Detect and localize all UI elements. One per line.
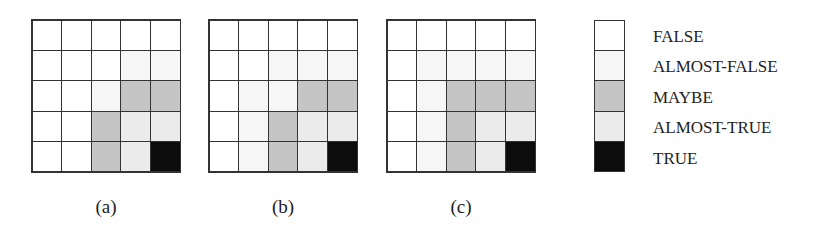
grid-cell: [446, 20, 477, 51]
grid-cell: [268, 141, 299, 172]
legend-swatch-almost-true: [595, 112, 624, 142]
grid-cell: [238, 141, 269, 172]
grid-cell: [268, 80, 299, 111]
legend-swatch-almost-false: [595, 51, 624, 81]
grid-cell: [91, 20, 122, 51]
grid-cell: [416, 111, 447, 142]
grid-cell: [268, 50, 299, 81]
grid-cell: [32, 80, 63, 111]
caption-c: (c): [386, 196, 536, 218]
grid-cell: [61, 111, 92, 142]
legend-swatches: [594, 20, 625, 172]
grid-cell: [387, 141, 418, 172]
grid-cell: [475, 20, 506, 51]
grid-cell: [238, 50, 269, 81]
grid-cell: [150, 111, 181, 142]
legend-label-almost-false: ALMOST-FALSE: [653, 52, 778, 82]
grid-cell: [32, 111, 63, 142]
grid-cell: [209, 80, 240, 111]
legend-label-maybe: MAYBE: [653, 83, 778, 113]
legend-swatch-maybe: [595, 81, 624, 111]
grid-cell: [120, 20, 151, 51]
grid-cell: [327, 50, 358, 81]
legend-label-almost-true: ALMOST-TRUE: [653, 113, 778, 143]
grid-panel-c: [386, 19, 536, 173]
grid-cell: [91, 50, 122, 81]
grid-cell: [150, 20, 181, 51]
grid-panel-a: [31, 19, 181, 173]
grid-cell: [416, 141, 447, 172]
grid-cell: [238, 111, 269, 142]
grid-cell: [61, 50, 92, 81]
grid-cell: [387, 80, 418, 111]
grid-cell: [505, 50, 536, 81]
grid-cell: [297, 80, 328, 111]
grid-cell: [61, 80, 92, 111]
grid-cell: [416, 80, 447, 111]
grid-cell: [416, 20, 447, 51]
grid-cell: [446, 141, 477, 172]
grid-cell: [91, 80, 122, 111]
legend-swatch-true: [595, 142, 624, 171]
grid-cell: [297, 111, 328, 142]
legend-labels: FALSE ALMOST-FALSE MAYBE ALMOST-TRUE TRU…: [653, 22, 778, 174]
grid-cell: [327, 111, 358, 142]
grid-cell: [387, 20, 418, 51]
grid-cell: [120, 80, 151, 111]
grid-cell: [209, 141, 240, 172]
grid-cell: [387, 111, 418, 142]
grid-cell: [91, 141, 122, 172]
grid-cell: [268, 111, 299, 142]
grid-cell: [238, 20, 269, 51]
grid-cell: [327, 141, 358, 172]
grid-cell: [61, 141, 92, 172]
grid-cell: [120, 141, 151, 172]
grid-cell: [91, 111, 122, 142]
grid-cell: [150, 141, 181, 172]
grid-cell: [32, 50, 63, 81]
grid-cell: [120, 50, 151, 81]
grid-panel-b: [208, 19, 358, 173]
grid-cell: [61, 20, 92, 51]
grid-cell: [505, 111, 536, 142]
grid-cell: [475, 80, 506, 111]
grid-cell: [475, 50, 506, 81]
grid-cell: [238, 80, 269, 111]
grid-cell: [327, 80, 358, 111]
grid-cell: [505, 20, 536, 51]
grid-cell: [327, 20, 358, 51]
grid-cell: [387, 50, 418, 81]
grid-cell: [416, 50, 447, 81]
grid-cell: [297, 50, 328, 81]
grid-cell: [297, 20, 328, 51]
legend-label-true: TRUE: [653, 144, 778, 174]
grid-cell: [268, 20, 299, 51]
legend-label-false: FALSE: [653, 22, 778, 52]
grid-cell: [209, 50, 240, 81]
grid-cell: [209, 20, 240, 51]
grid-cell: [150, 80, 181, 111]
grid-cell: [505, 80, 536, 111]
grid-cell: [505, 141, 536, 172]
caption-a: (a): [31, 196, 181, 218]
grid-cell: [209, 111, 240, 142]
grid-cell: [32, 20, 63, 51]
grid-cell: [297, 141, 328, 172]
grid-cell: [32, 141, 63, 172]
grid-cell: [120, 111, 151, 142]
grid-cell: [446, 80, 477, 111]
grid-cell: [475, 111, 506, 142]
grid-cell: [475, 141, 506, 172]
caption-b: (b): [208, 196, 358, 218]
legend-swatch-false: [595, 21, 624, 51]
grid-cell: [150, 50, 181, 81]
grid-cell: [446, 111, 477, 142]
grid-cell: [446, 50, 477, 81]
